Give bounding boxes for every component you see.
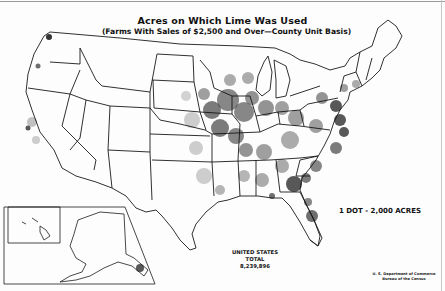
state-line: [110, 106, 150, 152]
hawaii-inset-frame: [8, 207, 60, 243]
us-dot-map: [0, 0, 445, 291]
state-line: [157, 54, 193, 56]
total-label-line2: TOTAL: [222, 256, 288, 263]
map-legend: 1 DOT - 2,000 ACRES: [339, 207, 421, 215]
alaska-outline: [60, 212, 148, 282]
state-line: [153, 80, 154, 108]
state-line: [86, 100, 112, 188]
state-line: [62, 94, 96, 170]
insets: [4, 207, 155, 284]
total-label-line1: UNITED STATES: [222, 249, 288, 256]
hawaii-islands: [22, 218, 50, 240]
total-value: 8,239,896: [222, 263, 288, 270]
state-line: [366, 58, 372, 80]
lake-michigan: [256, 56, 272, 96]
state-line: [154, 108, 200, 112]
state-line: [356, 52, 360, 72]
us-total-box: UNITED STATES TOTAL 8,239,896: [222, 249, 288, 270]
state-line: [50, 48, 80, 64]
dots-alaska: [136, 264, 144, 272]
source-credit: U. S. Department of Commerce Bureau of t…: [366, 272, 442, 282]
source-line2: Bureau of the Census: [366, 277, 442, 282]
lake-erie: [290, 86, 320, 96]
state-line: [150, 134, 210, 136]
dots-ohio-valley: [256, 110, 304, 173]
state-line: [152, 56, 194, 82]
state-line: [80, 48, 150, 92]
state-line: [28, 70, 80, 94]
michigan-lower: [274, 60, 290, 98]
state-line: [108, 150, 152, 200]
